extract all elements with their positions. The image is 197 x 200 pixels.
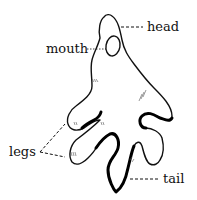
label-mouth: mouth bbox=[46, 41, 89, 56]
texture-hatches bbox=[71, 79, 146, 162]
mouth-shape bbox=[104, 35, 121, 57]
label-legs: legs bbox=[9, 144, 36, 159]
legs-leader-upper bbox=[40, 124, 65, 152]
label-head: head bbox=[147, 19, 179, 34]
label-tail: tail bbox=[163, 171, 184, 186]
organism-diagram: head mouth legs tail bbox=[0, 0, 197, 200]
legs-leader-lower bbox=[40, 152, 65, 157]
tail-thick-edge bbox=[96, 134, 134, 192]
lobe-thick-edge bbox=[140, 113, 172, 128]
